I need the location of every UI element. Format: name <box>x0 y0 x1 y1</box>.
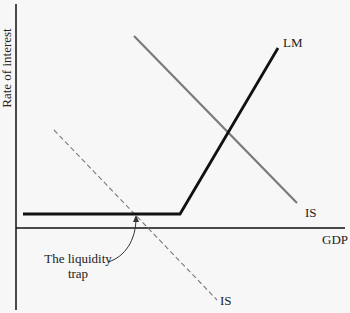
liquidity-trap-label: The liquidity trap <box>38 251 118 281</box>
lm-label: LM <box>283 36 303 49</box>
gdp-label: GDP <box>322 233 348 246</box>
is-shifted-label: IS <box>220 294 232 307</box>
is-curve <box>134 36 297 203</box>
y-axis-label: Rate of interest <box>0 13 15 123</box>
is-label: IS <box>305 206 317 219</box>
trap-line-2: trap <box>38 266 118 281</box>
trap-line-1: The liquidity <box>38 251 118 266</box>
lm-curve <box>23 48 278 214</box>
